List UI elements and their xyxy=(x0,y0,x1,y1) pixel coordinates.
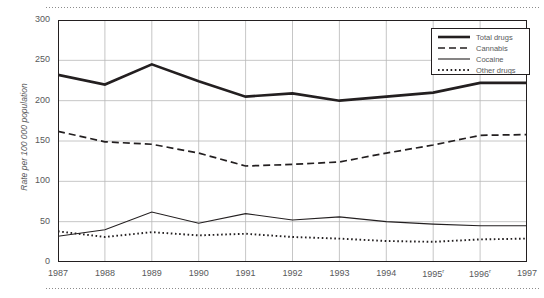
y-tick-label: 150 xyxy=(10,135,50,145)
y-tick-label: 200 xyxy=(10,95,50,105)
legend-label: Cannabis xyxy=(476,44,508,53)
legend-label: Other drugs xyxy=(476,66,516,74)
chart-legend: Total drugsCannabisCocaineOther drugs xyxy=(431,28,530,75)
legend-label: Cocaine xyxy=(476,55,504,64)
decorative-rule-bottom xyxy=(46,288,540,289)
y-tick-label: 250 xyxy=(10,54,50,64)
legend-label: Total drugs xyxy=(476,33,513,42)
y-tick-label: 100 xyxy=(10,175,50,185)
x-tick-label: 1997 xyxy=(497,268,544,278)
y-tick-label: 50 xyxy=(10,216,50,226)
chart-figure: Rate per 100 000 population 050100150200… xyxy=(0,0,544,298)
decorative-rule-top xyxy=(46,7,540,8)
y-tick-label: 300 xyxy=(10,14,50,24)
y-tick-label: 0 xyxy=(10,256,50,266)
